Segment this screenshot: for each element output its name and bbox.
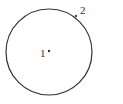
point-1-label: 1: [40, 47, 46, 59]
diagram-canvas: 1 2: [0, 0, 123, 104]
point-2-dot: [75, 15, 78, 18]
point-2-label: 2: [80, 4, 86, 16]
point-1-dot: [48, 50, 50, 52]
